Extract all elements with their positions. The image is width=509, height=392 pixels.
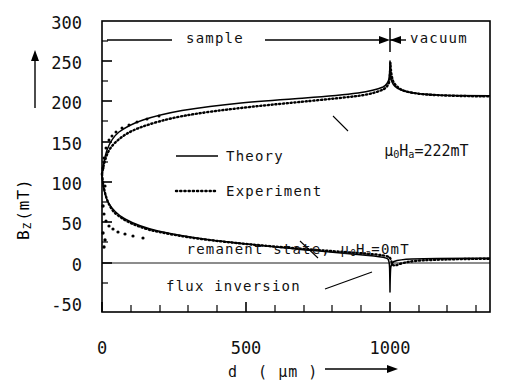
legend-label-theory: Theory <box>226 148 284 164</box>
mu-zero-symbol-2: μ <box>341 241 351 257</box>
annotation-vacuum: vacuum <box>410 30 468 46</box>
legend-label-experiment: Experiment <box>226 183 322 199</box>
leader-flux-inversion <box>325 272 372 289</box>
mu-zero-symbol: μ <box>384 142 393 160</box>
figure-bz-vs-d: 300 250 200 150 100 50 0 -50 0 500 1000 … <box>0 0 509 392</box>
leader-applied-field <box>333 116 348 131</box>
remanent-field-value: =0mT <box>371 241 410 257</box>
annotation-flux-inversion: flux inversion <box>166 278 301 294</box>
x-major-ticks <box>102 302 390 312</box>
sample-arrowhead <box>379 36 390 44</box>
region-indicator-vacuum <box>390 36 406 44</box>
x-axis-arrow <box>325 365 398 373</box>
x-minor-ticks <box>131 305 476 312</box>
h-symbol: H <box>399 142 408 160</box>
annotation-remanent-state: remanent state, μ0Ha=0mT <box>148 225 410 274</box>
y-axis-arrow <box>31 50 39 108</box>
applied-field-value: =222mT <box>414 142 468 160</box>
annotation-sample: sample <box>186 30 244 46</box>
remanent-state-text: remanent state, <box>187 241 341 257</box>
annotation-applied-field: μ0Ha=222mT <box>348 124 469 178</box>
h-symbol-2: H <box>356 241 366 257</box>
